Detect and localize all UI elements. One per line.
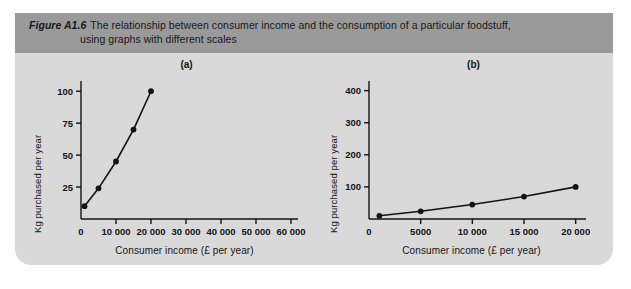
x-tick-label: 0	[366, 226, 371, 237]
figure-body-panel: (a) Kg purchased per year Consumer incom…	[15, 53, 613, 265]
x-tick-label: 40 000	[206, 226, 235, 237]
figure-number-label: Figure A1.6	[29, 19, 86, 31]
caption-line-2: using graphs with different scales	[29, 32, 603, 46]
data-point-marker	[96, 185, 102, 191]
x-tick-label: 10 000	[458, 226, 487, 237]
figure-root: Figure A1.6The relationship between cons…	[0, 0, 631, 289]
x-tick-label: 20 000	[136, 226, 165, 237]
data-point-marker	[82, 203, 88, 209]
x-tick-label: 15 000	[509, 226, 538, 237]
data-point-marker	[521, 194, 527, 200]
data-point-marker	[131, 127, 137, 133]
y-tick-label: 300	[345, 117, 361, 128]
x-tick-label: 10 000	[101, 226, 130, 237]
data-point-marker	[418, 208, 424, 214]
y-tick-label: 25	[62, 182, 73, 193]
data-point-marker	[148, 88, 154, 94]
x-tick-label: 20 000	[561, 226, 590, 237]
chart-panel-a: (a) Kg purchased per year Consumer incom…	[15, 53, 314, 265]
y-tick-label: 50	[62, 150, 73, 161]
charts-row: (a) Kg purchased per year Consumer incom…	[15, 53, 613, 265]
y-tick-label: 75	[62, 118, 73, 129]
y-tick-label: 400	[345, 85, 361, 96]
caption-text-line-1: The relationship between consumer income…	[90, 19, 510, 31]
figure-caption-band: Figure A1.6The relationship between cons…	[15, 13, 613, 53]
y-tick-label: 200	[345, 149, 361, 160]
data-point-marker	[376, 213, 382, 219]
x-tick-label: 5000	[410, 226, 431, 237]
caption-line-1: Figure A1.6The relationship between cons…	[29, 18, 603, 32]
chart-a-plot: 255075100010 00020 00030 00040 00050 000…	[15, 53, 314, 265]
x-tick-label: 50 000	[241, 226, 270, 237]
chart-b-plot: 1002003004000500010 00015 00020 000	[314, 53, 613, 265]
x-tick-label: 0	[78, 226, 83, 237]
y-tick-label: 100	[57, 86, 73, 97]
data-point-marker	[469, 202, 475, 208]
x-tick-label: 30 000	[171, 226, 200, 237]
x-tick-label: 60 000	[276, 226, 305, 237]
chart-panel-b: (b) Kg purchased per year Consumer incom…	[314, 53, 613, 265]
data-series-line	[379, 187, 575, 216]
data-point-marker	[573, 184, 579, 190]
data-point-marker	[113, 159, 119, 165]
data-series-line	[85, 91, 152, 206]
y-tick-label: 100	[345, 181, 361, 192]
